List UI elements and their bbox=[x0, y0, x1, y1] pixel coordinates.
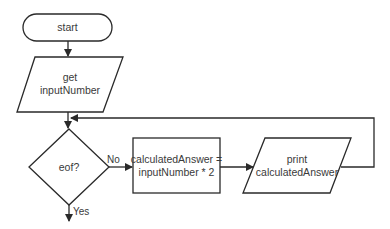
input-label-line2: inputNumber bbox=[40, 84, 101, 96]
input-label-line1: get bbox=[63, 71, 78, 83]
input-node: get inputNumber bbox=[17, 57, 123, 112]
decision-node: eof? bbox=[29, 129, 109, 205]
output-label-line2: calculatedAnswer bbox=[256, 166, 339, 178]
flowchart-canvas: start get inputNumber eof? No calculated… bbox=[0, 0, 390, 229]
decision-label: eof? bbox=[59, 161, 80, 173]
process-label-line1: calculatedAnswer = bbox=[131, 153, 222, 165]
edge-label-yes: Yes bbox=[73, 206, 89, 217]
process-label-line2: inputNumber * 2 bbox=[139, 166, 215, 178]
output-label-line1: print bbox=[287, 153, 308, 165]
output-node: print calculatedAnswer bbox=[243, 138, 351, 193]
edge-label-no: No bbox=[107, 154, 120, 165]
process-node: calculatedAnswer = inputNumber * 2 bbox=[131, 138, 222, 193]
start-terminal: start bbox=[23, 14, 112, 41]
start-label: start bbox=[57, 21, 78, 33]
